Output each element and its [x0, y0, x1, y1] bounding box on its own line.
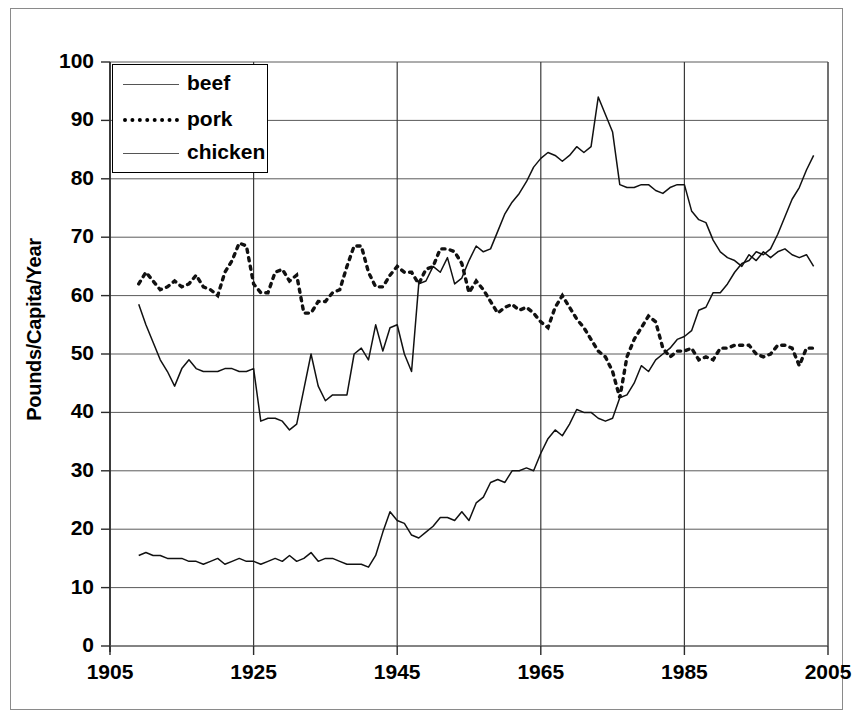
x-tick-label-1945: 1945 — [337, 660, 457, 684]
y-tick-label-70: 70 — [24, 224, 94, 248]
y-tick-label-90: 90 — [24, 107, 94, 131]
legend-label-pork: pork — [187, 107, 233, 131]
y-tick-label-40: 40 — [24, 399, 94, 423]
series-line-pork — [139, 243, 814, 398]
chart-page: Pounds/Capita/Year 010203040506070809010… — [0, 0, 856, 724]
legend-item-chicken: chicken — [113, 136, 269, 172]
legend-key-chicken-icon — [123, 153, 179, 156]
y-tick-label-0: 0 — [24, 633, 94, 657]
y-tick-label-50: 50 — [24, 341, 94, 365]
y-tick-label-30: 30 — [24, 458, 94, 482]
x-tick-label-2005: 2005 — [768, 660, 856, 684]
y-tick-label-60: 60 — [24, 283, 94, 307]
legend-item-pork: pork — [113, 103, 269, 139]
x-tick-label-1985: 1985 — [624, 660, 744, 684]
legend-item-beef: beef — [113, 67, 269, 103]
y-tick-label-10: 10 — [24, 575, 94, 599]
y-tick-label-20: 20 — [24, 516, 94, 540]
legend-label-beef: beef — [187, 71, 230, 95]
legend: beef pork chicken — [112, 64, 268, 173]
legend-key-pork-icon — [123, 118, 179, 124]
x-tick-label-1905: 1905 — [50, 660, 170, 684]
x-tick-label-1925: 1925 — [194, 660, 314, 684]
y-tick-label-100: 100 — [24, 49, 94, 73]
legend-key-beef-icon — [123, 84, 179, 87]
legend-label-chicken: chicken — [187, 140, 265, 164]
y-tick-label-80: 80 — [24, 166, 94, 190]
x-tick-label-1965: 1965 — [481, 660, 601, 684]
